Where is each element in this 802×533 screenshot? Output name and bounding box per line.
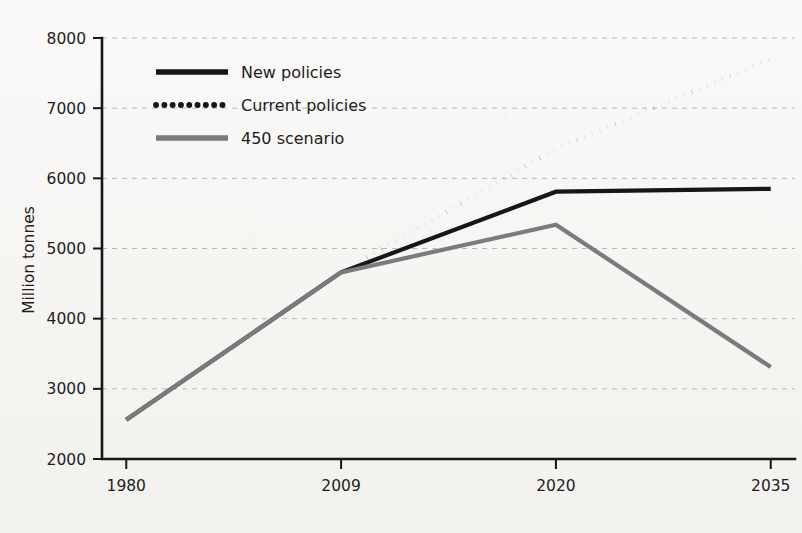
y-tick-label: 8000 bbox=[47, 30, 86, 48]
y-tick-label: 6000 bbox=[47, 170, 86, 188]
y-axis-title: Million tonnes bbox=[20, 206, 38, 314]
y-tick-label: 2000 bbox=[47, 451, 86, 469]
legend-label: New policies bbox=[241, 63, 341, 82]
chart-figure: 2000300040005000600070008000 19802009202… bbox=[0, 0, 802, 533]
legend-label: 450 scenario bbox=[241, 129, 344, 148]
x-tick-label: 2020 bbox=[536, 477, 575, 495]
series-line bbox=[126, 225, 770, 420]
y-tick-label: 4000 bbox=[47, 310, 86, 328]
gridlines bbox=[102, 38, 795, 389]
x-tick-label: 2035 bbox=[751, 477, 790, 495]
data-series bbox=[126, 59, 770, 420]
y-tick-label: 7000 bbox=[47, 100, 86, 118]
x-tick-label: 2009 bbox=[321, 477, 360, 495]
line-chart-canvas: 2000300040005000600070008000 19802009202… bbox=[0, 0, 802, 533]
x-tick-label: 1980 bbox=[107, 477, 146, 495]
chart-legend: New policiesCurrent policies450 scenario bbox=[156, 63, 366, 148]
series-line bbox=[126, 59, 770, 420]
y-axis-tick-labels: 2000300040005000600070008000 bbox=[47, 30, 86, 469]
legend-label: Current policies bbox=[241, 96, 366, 115]
x-axis-tick-labels: 1980200920202035 bbox=[107, 477, 791, 495]
y-tick-label: 5000 bbox=[47, 240, 86, 258]
y-tick-label: 3000 bbox=[47, 380, 86, 398]
